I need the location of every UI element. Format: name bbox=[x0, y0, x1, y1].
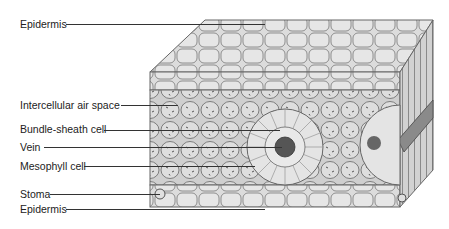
leader-line-epidermis-bottom bbox=[66, 209, 265, 210]
label-stoma: Stoma bbox=[20, 188, 50, 200]
leader-line-mesophyll bbox=[84, 166, 255, 167]
leader-line-vein bbox=[44, 147, 282, 148]
label-intercellular-air-space: Intercellular air space bbox=[20, 99, 120, 111]
leader-line-bundle-sheath bbox=[104, 130, 280, 131]
leaf-diagram: Epidermis Intercellular air space Bundle… bbox=[0, 0, 449, 229]
label-bundle-sheath-cell: Bundle-sheath cell bbox=[20, 123, 106, 135]
label-mesophyll-cell: Mesophyll cell bbox=[20, 160, 86, 172]
leader-line-air-space bbox=[121, 105, 178, 106]
label-epidermis-bottom: Epidermis bbox=[20, 203, 67, 215]
label-epidermis-top: Epidermis bbox=[20, 18, 67, 30]
leader-line-epidermis-top bbox=[66, 24, 265, 25]
label-vein: Vein bbox=[20, 141, 40, 153]
leader-line-stoma bbox=[50, 194, 160, 195]
